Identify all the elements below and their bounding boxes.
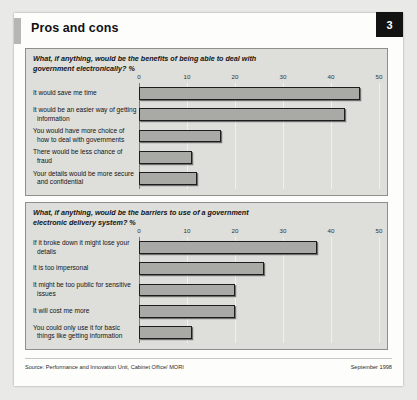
gridline <box>379 237 380 343</box>
bar-row <box>139 326 379 339</box>
x-tick-label: 50 <box>376 227 383 234</box>
category-label: You would have more choice of how to dea… <box>33 125 137 146</box>
bar-row <box>139 151 379 164</box>
bar <box>139 326 192 339</box>
bar-row <box>139 130 379 143</box>
category-label: It will cost me more <box>33 301 137 322</box>
category-labels-barriers: If it broke down it might lose your deta… <box>33 237 137 343</box>
x-tick-label: 10 <box>184 73 191 80</box>
bar <box>139 262 264 275</box>
bar <box>139 151 192 164</box>
bar <box>139 130 221 143</box>
footer-date: September 1998 <box>351 364 392 370</box>
page-number-badge: 3 <box>376 12 403 37</box>
category-label: Your details would be more secure and co… <box>33 168 137 189</box>
bar-row <box>139 284 379 297</box>
category-label: If it broke down it might lose your deta… <box>33 237 137 258</box>
x-tick-label: 20 <box>232 73 239 80</box>
category-labels-benefits: It would save me timeIt would be an easi… <box>33 83 137 189</box>
bar-row <box>139 305 379 318</box>
x-tick-label: 30 <box>280 73 287 80</box>
x-tick-label: 20 <box>232 227 239 234</box>
bar-row <box>139 172 379 185</box>
chart-panel-barriers: What, if anything, would be the barriers… <box>25 202 388 350</box>
x-axis-barriers: 01020304050 <box>139 227 379 237</box>
bar <box>139 108 345 121</box>
document-page: Pros and cons 3 What, if anything, would… <box>14 13 403 386</box>
bar <box>139 305 235 318</box>
category-label: You could only use it for basic things l… <box>33 322 137 343</box>
category-label: It might be too public for sensitive iss… <box>33 279 137 300</box>
category-label: It is too impersonal <box>33 258 137 279</box>
category-label: There would be less chance of fraud <box>33 147 137 168</box>
bar-row <box>139 108 379 121</box>
page-footer: Source: Performance and Innovation Unit,… <box>25 358 392 377</box>
chart-panel-benefits: What, if anything, would be the benefits… <box>25 48 388 196</box>
category-label: It would save me time <box>33 83 137 104</box>
bar <box>139 241 317 254</box>
title-accent-bar <box>14 18 21 44</box>
bar <box>139 172 197 185</box>
x-tick-label: 0 <box>137 73 140 80</box>
footer-source: Source: Performance and Innovation Unit,… <box>25 364 184 370</box>
x-tick-label: 30 <box>280 227 287 234</box>
page-header: Pros and cons 3 <box>14 13 403 46</box>
bar <box>139 87 360 100</box>
bar <box>139 284 235 297</box>
plot-area-barriers: 01020304050 <box>139 227 379 343</box>
category-label: It would be an easier way of getting inf… <box>33 104 137 125</box>
chart-title-barriers: What, if anything, would be the barriers… <box>33 208 283 228</box>
x-axis-benefits: 01020304050 <box>139 73 379 83</box>
chart-title-benefits: What, if anything, would be the benefits… <box>33 54 283 74</box>
x-tick-label: 0 <box>137 227 140 234</box>
bar-series-barriers <box>139 237 379 343</box>
x-tick-label: 10 <box>184 227 191 234</box>
x-tick-label: 40 <box>328 73 335 80</box>
bar-row <box>139 241 379 254</box>
bar-row <box>139 262 379 275</box>
bar-series-benefits <box>139 83 379 189</box>
page-title: Pros and cons <box>31 21 118 35</box>
x-tick-label: 40 <box>328 227 335 234</box>
x-tick-label: 50 <box>376 73 383 80</box>
bar-row <box>139 87 379 100</box>
gridline <box>379 83 380 189</box>
plot-area-benefits: 01020304050 <box>139 73 379 189</box>
